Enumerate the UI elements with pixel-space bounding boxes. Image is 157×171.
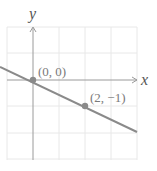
chart-plot <box>0 0 157 171</box>
point-two-neg-one <box>82 103 88 109</box>
y-axis-label: y <box>29 6 36 22</box>
point-origin-label: (0, 0) <box>38 65 66 78</box>
x-axis-label: x <box>141 72 148 88</box>
point-two-label: (2, −1) <box>90 91 126 104</box>
point-origin <box>30 77 36 83</box>
